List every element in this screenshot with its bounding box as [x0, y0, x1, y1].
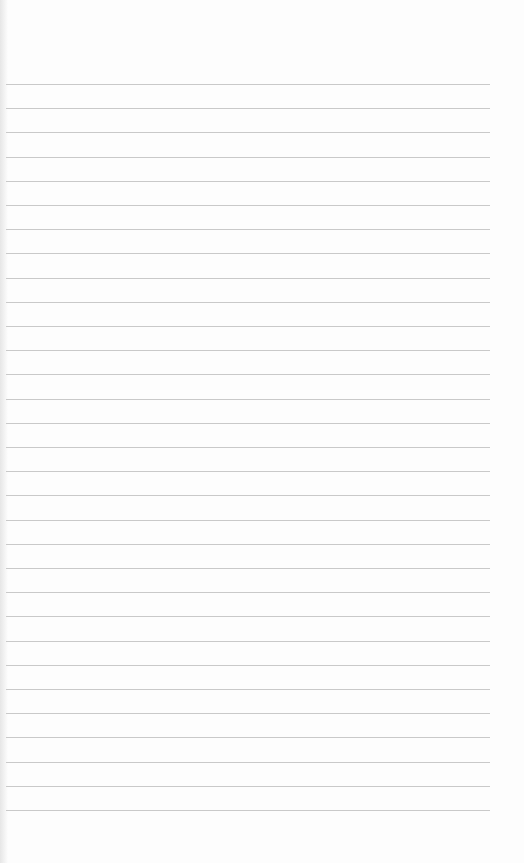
ruled-line: [6, 737, 490, 738]
ruled-line: [6, 568, 490, 569]
ruled-line: [6, 326, 490, 327]
ruled-line: [6, 689, 490, 690]
ruled-line: [6, 471, 490, 472]
ruled-line: [6, 810, 490, 811]
ruled-line: [6, 762, 490, 763]
ruled-line: [6, 713, 490, 714]
ruled-line: [6, 157, 490, 158]
ruled-line: [6, 350, 490, 351]
ruled-line: [6, 278, 490, 279]
ruled-line: [6, 84, 490, 85]
ruled-line: [6, 592, 490, 593]
ruled-line: [6, 108, 490, 109]
lined-paper-page: [0, 0, 524, 863]
ruled-line: [6, 132, 490, 133]
ruled-line: [6, 229, 490, 230]
ruled-line: [6, 447, 490, 448]
ruled-line: [6, 399, 490, 400]
ruled-line: [6, 181, 490, 182]
ruled-line: [6, 520, 490, 521]
ruled-line: [6, 544, 490, 545]
ruled-line: [6, 302, 490, 303]
ruled-line: [6, 495, 490, 496]
ruled-line: [6, 374, 490, 375]
ruled-line: [6, 616, 490, 617]
ruled-line: [6, 786, 490, 787]
ruled-line: [6, 665, 490, 666]
ruled-line: [6, 253, 490, 254]
ruled-line: [6, 423, 490, 424]
ruled-line: [6, 205, 490, 206]
page-edge-shadow: [0, 0, 8, 863]
ruled-line: [6, 641, 490, 642]
